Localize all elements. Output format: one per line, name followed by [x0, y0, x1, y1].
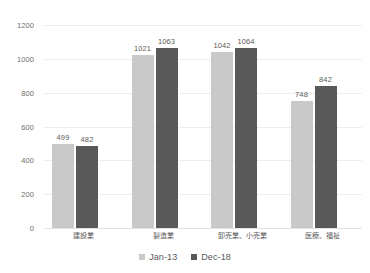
legend-label: Dec-18 [201, 252, 231, 262]
x-axis-category-label: 建設業 [44, 230, 124, 240]
bar[interactable] [52, 144, 74, 228]
y-axis-tick-label: 1200 [17, 21, 34, 30]
bar[interactable] [315, 86, 337, 228]
gridline [44, 228, 362, 229]
x-axis: 建設業製造業卸売業、小売業医療、福祉 [44, 230, 362, 246]
bar[interactable] [211, 52, 233, 228]
legend-swatch-icon [191, 254, 197, 260]
legend-label: Jan-13 [149, 252, 177, 262]
x-axis-category-label: 製造業 [124, 230, 204, 240]
bar-chart: 020040060080010001200 499482102110631042… [0, 0, 370, 273]
y-axis-tick-label: 400 [21, 156, 34, 165]
bar-value-label: 1042 [213, 41, 230, 50]
bar-value-label: 1063 [158, 37, 175, 46]
x-axis-category-label: 卸売業、小売業 [203, 230, 283, 240]
bar[interactable] [291, 101, 313, 228]
bar-group: 10211063 [124, 25, 204, 228]
bar[interactable] [76, 146, 98, 228]
bar-value-label: 499 [57, 133, 70, 142]
chart-legend: Jan-13Dec-18 [0, 252, 370, 262]
bar[interactable] [132, 55, 154, 228]
bar[interactable] [235, 48, 257, 228]
y-axis-tick-label: 800 [21, 88, 34, 97]
x-axis-category-label: 医療、福祉 [283, 230, 363, 240]
bar[interactable] [156, 48, 178, 228]
bar-value-label: 482 [81, 135, 94, 144]
bar-value-label: 842 [319, 75, 332, 84]
legend-item[interactable]: Jan-13 [139, 252, 177, 262]
y-axis-tick-label: 200 [21, 190, 34, 199]
legend-swatch-icon [139, 254, 145, 260]
y-axis-tick-label: 1000 [17, 54, 34, 63]
bars-layer: 4994821021106310421064748842 [44, 25, 362, 228]
y-axis-tick-label: 0 [30, 224, 34, 233]
y-axis: 020040060080010001200 [0, 25, 40, 228]
bar-value-label: 1064 [237, 37, 254, 46]
bar-group: 499482 [44, 25, 124, 228]
bar-group: 10421064 [203, 25, 283, 228]
y-axis-tick-label: 600 [21, 122, 34, 131]
bar-value-label: 748 [295, 90, 308, 99]
bar-value-label: 1021 [134, 44, 151, 53]
legend-item[interactable]: Dec-18 [191, 252, 231, 262]
bar-group: 748842 [283, 25, 363, 228]
